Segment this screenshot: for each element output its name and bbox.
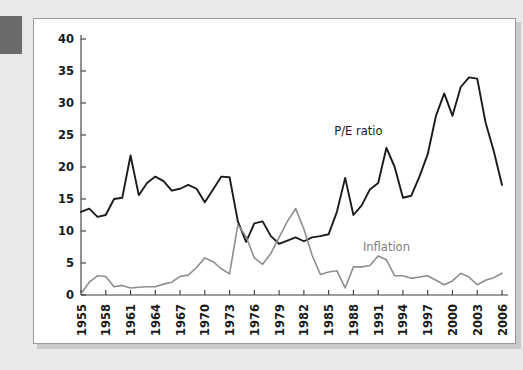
x-axis-tick-label: 1967: [174, 304, 188, 336]
series-label-p-e-ratio: P/E ratio: [334, 124, 382, 138]
x-axis-tick-label: 1970: [198, 304, 212, 336]
y-axis-tick-label: 35: [58, 64, 74, 78]
y-axis-tick-label: 25: [58, 128, 74, 142]
page-edge-tab: [0, 16, 22, 54]
x-axis-tick-label: 1979: [273, 304, 287, 336]
series-label-inflation: Inflation: [363, 240, 410, 254]
x-axis-tick-label: 1985: [322, 304, 336, 336]
y-axis-tick-label: 5: [66, 256, 74, 270]
x-axis-tick-label: 1976: [248, 304, 262, 336]
x-axis-tick-label: 1997: [421, 304, 435, 336]
x-axis-tick-label: 1973: [223, 304, 237, 336]
x-axis-tick-label: 1988: [347, 304, 361, 336]
x-axis-tick-label: 1961: [124, 304, 138, 336]
y-axis-tick-label: 40: [58, 32, 74, 46]
x-axis-tick-label: 1994: [396, 304, 410, 336]
y-axis-tick-label: 10: [58, 224, 74, 238]
series-line-p-e-ratio: [81, 77, 502, 243]
y-axis-tick-label: 0: [66, 288, 74, 302]
y-axis-tick-label: 15: [58, 192, 74, 206]
chart-plot-area: 0510152025303540195519581961196419671970…: [34, 19, 517, 345]
y-axis-tick-label: 20: [58, 160, 74, 174]
line-chart: 0510152025303540195519581961196419671970…: [34, 19, 517, 345]
page-background: 0510152025303540195519581961196419671970…: [0, 0, 523, 370]
x-axis-tick-label: 2006: [496, 304, 510, 336]
x-axis-tick-label: 2000: [446, 304, 460, 336]
series-line-inflation: [81, 209, 502, 294]
x-axis-tick-label: 1955: [75, 304, 89, 336]
y-axis-tick-label: 30: [58, 96, 74, 110]
x-axis-tick-label: 1982: [297, 304, 311, 336]
x-axis-tick-label: 1958: [99, 304, 113, 336]
chart-card: 0510152025303540195519581961196419671970…: [33, 18, 516, 344]
x-axis-tick-label: 2003: [471, 304, 485, 336]
x-axis-tick-label: 1964: [149, 304, 163, 336]
x-axis-tick-label: 1991: [372, 304, 386, 336]
